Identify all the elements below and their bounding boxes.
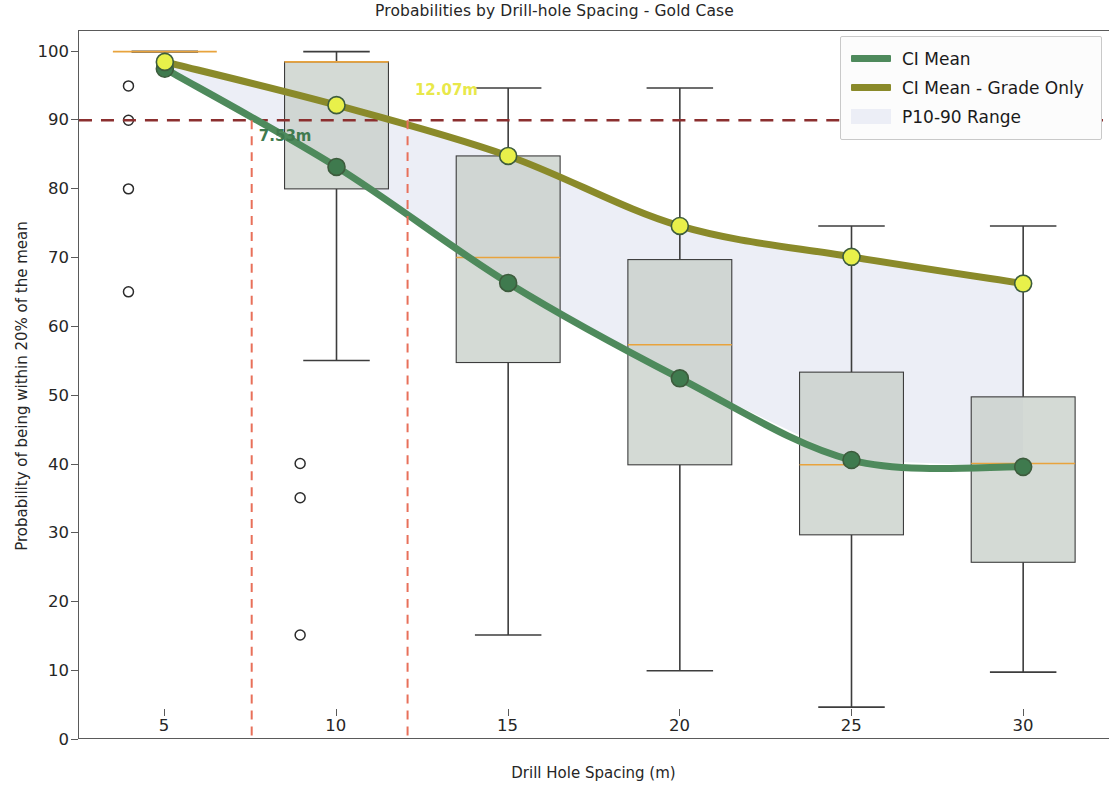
y-tick-mark [71, 464, 78, 465]
legend-item-ci-mean[interactable]: CI Mean [851, 44, 1091, 73]
y-tick-mark [71, 532, 78, 533]
legend-label-p10-90-range: P10-90 Range [902, 107, 1021, 127]
series-marker-1 [500, 147, 517, 164]
vertical-marker-label-1: 12.07m [415, 81, 478, 99]
x-tick-label: 10 [301, 716, 371, 735]
x-tick-label: 15 [473, 716, 543, 735]
x-tick-mark [851, 709, 852, 716]
series-marker-1 [671, 217, 688, 234]
boxplot-outlier [123, 184, 133, 194]
boxplot-outlier [123, 287, 133, 297]
legend-item-p10-90-range[interactable]: P10-90 Range [851, 102, 1091, 131]
y-tick-mark [71, 739, 78, 740]
series-marker-0 [671, 370, 688, 387]
series-marker-1 [843, 248, 860, 265]
page-title: Probabilities by Drill-hole Spacing - Go… [0, 2, 1109, 20]
x-tick-label: 5 [129, 716, 199, 735]
legend-label-ci-mean-grade-only: CI Mean - Grade Only [902, 78, 1084, 98]
boxplot-outlier [123, 81, 133, 91]
legend: CI Mean CI Mean - Grade Only P10-90 Rang… [840, 36, 1102, 140]
legend-swatch-ci-mean [851, 55, 891, 62]
x-tick-mark [336, 709, 337, 716]
x-tick-mark [508, 709, 509, 716]
x-tick-mark [679, 709, 680, 716]
y-tick-mark [71, 395, 78, 396]
x-tick-mark [164, 709, 165, 716]
y-tick-mark [71, 326, 78, 327]
chart-canvas: Probabilities by Drill-hole Spacing - Go… [0, 0, 1109, 791]
x-axis-label: Drill Hole Spacing (m) [78, 764, 1109, 782]
boxplot-box [971, 397, 1075, 562]
x-tick-mark [1023, 709, 1024, 716]
y-tick-mark [71, 257, 78, 258]
series-marker-1 [1015, 275, 1032, 292]
legend-label-ci-mean: CI Mean [902, 49, 971, 69]
boxplot-outlier [295, 493, 305, 503]
series-marker-1 [156, 53, 173, 70]
x-tick-label: 20 [644, 716, 714, 735]
y-axis-label: Probability of being within 20% of the m… [13, 32, 31, 741]
series-marker-1 [328, 97, 345, 114]
boxplot-outlier [295, 458, 305, 468]
legend-item-ci-mean-grade-only[interactable]: CI Mean - Grade Only [851, 73, 1091, 102]
y-tick-mark [71, 119, 78, 120]
series-marker-0 [843, 452, 860, 469]
boxplot-outlier [295, 630, 305, 640]
series-marker-0 [500, 274, 517, 291]
vertical-marker-label-0: 7.53m [259, 127, 312, 145]
x-tick-label: 25 [816, 716, 886, 735]
y-tick-mark [71, 188, 78, 189]
legend-swatch-ci-mean-grade-only [851, 84, 891, 91]
y-tick-mark [71, 670, 78, 671]
y-tick-mark [71, 51, 78, 52]
x-tick-label: 30 [988, 716, 1058, 735]
series-marker-0 [328, 158, 345, 175]
legend-swatch-p10-90-range [851, 109, 891, 124]
y-tick-mark [71, 601, 78, 602]
series-marker-0 [1015, 458, 1032, 475]
